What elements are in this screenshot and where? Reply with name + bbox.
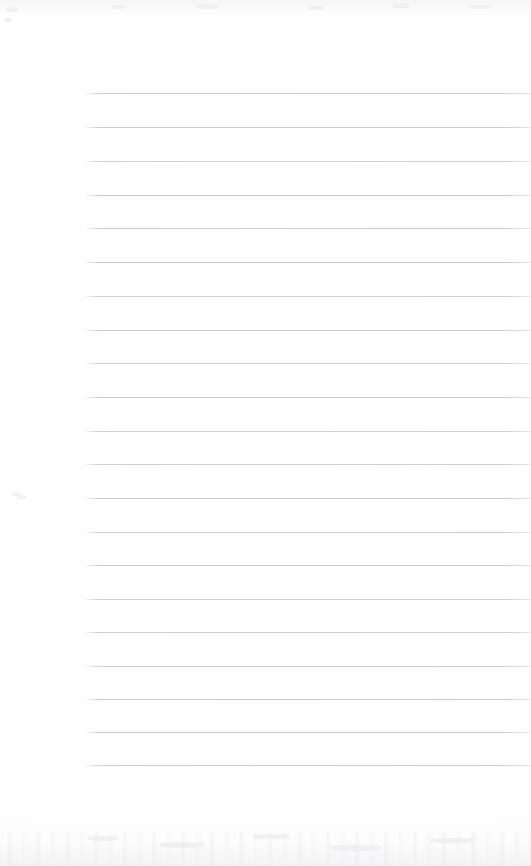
ruled-line [85, 195, 531, 196]
ruled-line [85, 397, 531, 398]
ruled-line [85, 565, 531, 566]
ruled-line [85, 262, 531, 263]
ruled-line [85, 732, 531, 733]
ruled-line [85, 699, 531, 700]
ruled-line [85, 296, 531, 297]
ruled-line [85, 599, 531, 600]
ruled-line [85, 228, 531, 229]
ruled-line [85, 765, 531, 766]
ruled-line [85, 498, 531, 499]
scanned-page [0, 0, 531, 866]
ruled-line [85, 464, 531, 465]
ruled-line [85, 93, 531, 94]
ruled-line [85, 666, 531, 667]
ruled-line [85, 431, 531, 432]
ruled-line [85, 632, 531, 633]
ruled-line [85, 532, 531, 533]
ruled-line [85, 161, 531, 162]
ruled-line [85, 127, 531, 128]
ruled-line [85, 363, 531, 364]
ruled-lines-layer [0, 0, 531, 866]
ruled-line [85, 330, 531, 331]
